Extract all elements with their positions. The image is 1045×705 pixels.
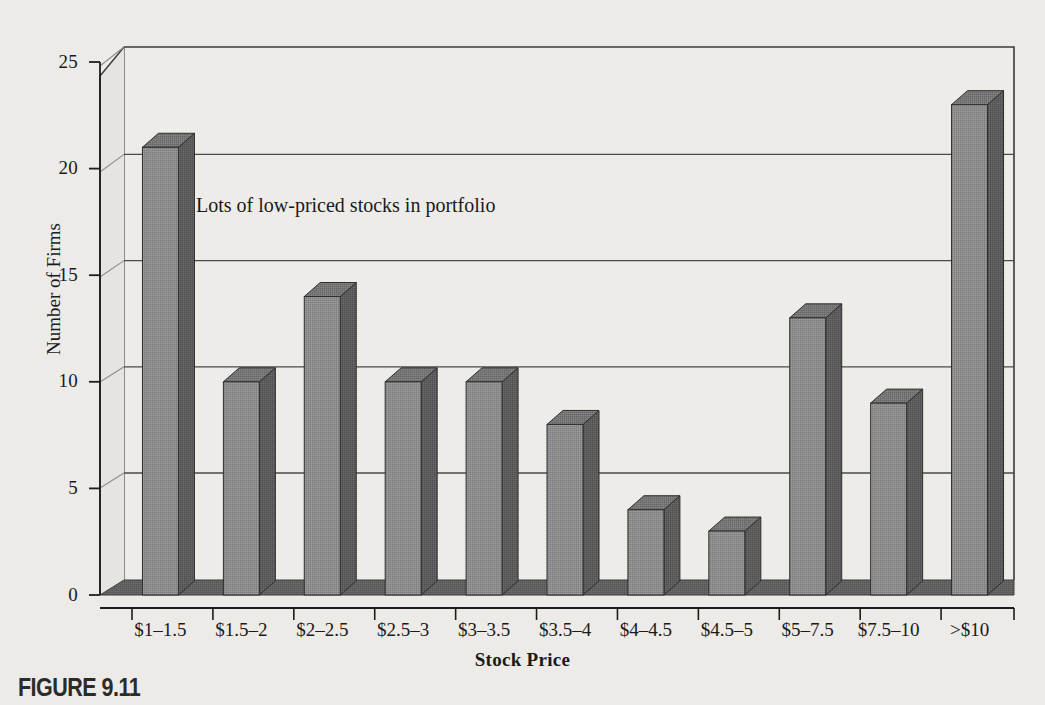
bar-side-face [178, 133, 194, 595]
bar-column [790, 304, 842, 595]
bar-front-face [142, 147, 178, 595]
bar-side-face [421, 368, 437, 595]
plot-side-wall [100, 47, 124, 595]
bar-front-face [466, 382, 502, 595]
bar-side-face [988, 91, 1004, 595]
bar-column [385, 368, 437, 595]
bar-front-face [385, 382, 421, 595]
bar-front-face [547, 424, 583, 595]
ytick-label-25: 25 [32, 52, 78, 71]
x-axis-title: Stock Price [0, 649, 1045, 671]
bar-side-face [259, 368, 275, 595]
bar-side-face [826, 304, 842, 595]
y-axis [89, 62, 100, 595]
bar-front-face [709, 531, 745, 595]
bar-column [223, 368, 275, 595]
bar-column [952, 91, 1004, 595]
y-axis-title: Number of Firms [43, 199, 65, 379]
figure-caption: FIGURE 9.11 [18, 673, 140, 702]
bar-chart-graphic [0, 0, 1045, 660]
bar-front-face [628, 510, 664, 595]
bar-column [304, 283, 356, 595]
ytick-label-5: 5 [32, 478, 78, 497]
bar-column [466, 368, 518, 595]
bar-column [142, 133, 194, 595]
bar-column [871, 389, 923, 595]
bar-side-face [340, 283, 356, 595]
bar-side-face [664, 496, 680, 595]
bar-column [628, 496, 680, 595]
bar-front-face [790, 318, 826, 595]
bar-side-face [583, 410, 599, 595]
figure-container: 25 20 15 10 5 0 Number of Firms $1–1.5$1… [0, 0, 1045, 705]
bar-front-face [304, 297, 340, 595]
bar-front-face [871, 403, 907, 595]
chart-annotation: Lots of low-priced stocks in portfolio [196, 195, 495, 215]
bar-side-face [502, 368, 518, 595]
ytick-label-20: 20 [32, 158, 78, 177]
bar-front-face [223, 382, 259, 595]
ytick-label-0: 0 [32, 585, 78, 604]
chart-area: 25 20 15 10 5 0 Number of Firms $1–1.5$1… [0, 0, 1045, 660]
xtick-label: >$10 [910, 620, 1030, 639]
bar-side-face [907, 389, 923, 595]
bar-front-face [952, 105, 988, 595]
bar-column [709, 517, 761, 595]
bar-column [547, 410, 599, 595]
